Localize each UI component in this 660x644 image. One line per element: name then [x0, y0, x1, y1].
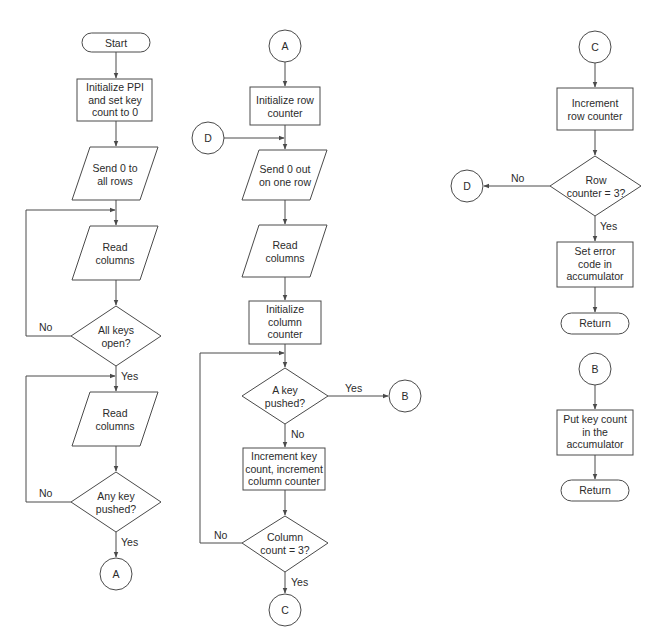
send-one-row-label: Send 0 out on one row: [259, 163, 311, 188]
connector-a-out-label: A: [112, 568, 119, 581]
return-2-label: Return: [579, 484, 611, 497]
read-columns-2-label: Read columns: [95, 407, 134, 432]
edge-label-a-key-no: No: [291, 428, 304, 440]
increment-row-label: Increment row counter: [568, 97, 623, 122]
connector-d-in-label: D: [204, 132, 212, 145]
send-all-rows-label: Send 0 to all rows: [93, 162, 138, 187]
connector-b-out-label: B: [401, 390, 408, 403]
edge-label-col-count-yes: Yes: [291, 576, 308, 588]
set-error-label: Set error code in accumulator: [566, 245, 623, 283]
a-key-pushed-label: A key pushed?: [265, 384, 305, 409]
edge-label-row-count-no: No: [511, 172, 524, 184]
edge-label-col-count-no: No: [214, 529, 227, 541]
edge-label-row-count-yes: Yes: [600, 220, 617, 232]
connector-a-in-label: A: [281, 40, 288, 53]
return-1-label: Return: [579, 317, 611, 330]
edge-label-any-key-no: No: [39, 487, 52, 499]
connector-c-in-label: C: [591, 41, 599, 54]
connector-c-out-label: C: [281, 604, 289, 617]
row-counter-label: Row counter = 3?: [567, 174, 626, 199]
edge-label-a-key-yes: Yes: [345, 382, 362, 394]
edge-label-all-keys-no: No: [39, 321, 52, 333]
any-key-pushed-label: Any key pushed?: [96, 490, 136, 515]
put-key-count-label: Put key count in the accumulator: [563, 413, 627, 451]
read-columns-1-label: Read columns: [95, 241, 134, 266]
all-keys-open-label: All keys open?: [98, 324, 134, 349]
edge-label-all-keys-yes: Yes: [121, 370, 138, 382]
column-count-label: Column count = 3?: [260, 531, 309, 556]
init-ppi-label: Initialize PPI and set key count to 0: [86, 81, 144, 119]
init-column-label: Initialize column counter: [266, 303, 304, 341]
increment-key-column-label: Increment key count, increment column co…: [245, 450, 323, 488]
read-columns-3-label: Read columns: [265, 239, 304, 264]
start-label: Start: [105, 37, 127, 50]
edge-label-any-key-yes: Yes: [121, 536, 138, 548]
connector-d-out-label: D: [463, 180, 471, 193]
init-row-label: Initialize row counter: [256, 94, 314, 119]
connector-b-in-label: B: [591, 363, 598, 376]
